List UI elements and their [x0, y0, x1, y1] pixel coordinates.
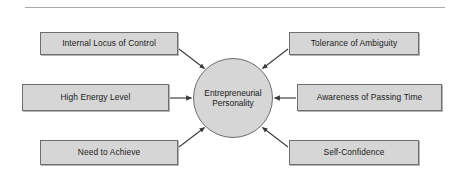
arrow-need-to-achieve [179, 128, 205, 148]
trait-box-tolerance-of-ambiguity[interactable]: Tolerance of Ambiguity [289, 32, 419, 55]
arrow-self-confidence [263, 128, 289, 148]
trait-label: Internal Locus of Control [62, 39, 156, 47]
diagram-canvas: Internal Locus of Control Tolerance of A… [0, 0, 467, 190]
trait-label: Need to Achieve [78, 148, 141, 156]
central-node-line-1: Entrepreneurial [204, 88, 261, 99]
trait-box-internal-locus-of-control[interactable]: Internal Locus of Control [40, 32, 178, 55]
trait-box-awareness-of-passing-time[interactable]: Awareness of Passing Time [297, 84, 442, 111]
trait-label: Awareness of Passing Time [317, 93, 423, 101]
trait-box-need-to-achieve[interactable]: Need to Achieve [40, 140, 178, 165]
trait-label: Self-Confidence [323, 148, 384, 156]
arrow-internal-locus-of-control [179, 49, 205, 69]
central-node-entrepreneurial-personality[interactable]: Entrepreneurial Personality [193, 58, 273, 138]
trait-box-self-confidence[interactable]: Self-Confidence [289, 140, 419, 165]
trait-label: Tolerance of Ambiguity [311, 39, 397, 47]
trait-box-high-energy-level[interactable]: High Energy Level [22, 84, 169, 111]
trait-label: High Energy Level [60, 93, 130, 101]
arrow-tolerance-of-ambiguity [263, 49, 289, 69]
central-node-line-2: Personality [212, 98, 253, 109]
